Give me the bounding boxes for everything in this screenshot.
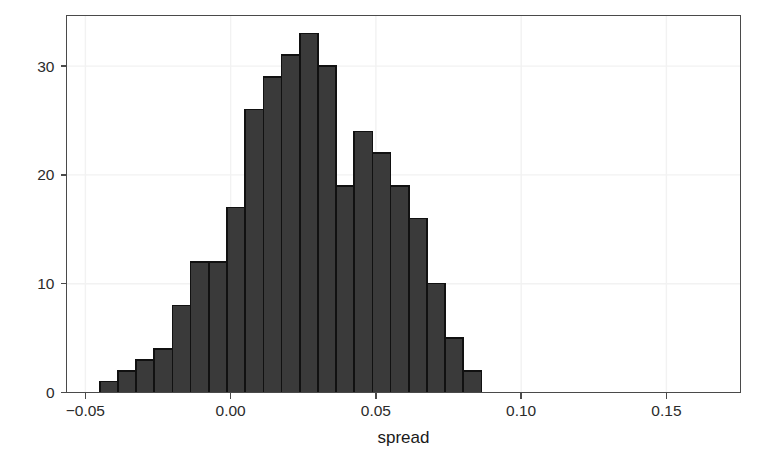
- y-tick-label: 0: [46, 384, 55, 401]
- histogram-figure: 0102030−0.050.000.050.100.15spread: [0, 0, 774, 457]
- histogram-bar: [227, 208, 245, 393]
- histogram-bar: [409, 218, 427, 392]
- x-tick-label: 0.00: [216, 402, 247, 419]
- histogram-bar: [336, 186, 354, 393]
- histogram-bar: [354, 131, 372, 392]
- histogram-bar: [390, 186, 408, 393]
- histogram-bar: [209, 262, 227, 393]
- y-tick-label: 20: [37, 166, 55, 183]
- x-tick-label: 0.05: [361, 402, 391, 419]
- histogram-bar: [136, 360, 154, 393]
- y-tick-label: 10: [37, 275, 55, 292]
- histogram-bar: [300, 33, 318, 392]
- histogram-bar: [318, 66, 336, 392]
- histogram-bar: [154, 349, 172, 393]
- x-axis: −0.050.000.050.100.15: [66, 393, 682, 419]
- histogram-bar: [372, 153, 390, 392]
- histogram-chart: 0102030−0.050.000.050.100.15spread: [0, 0, 774, 457]
- histogram-bar: [245, 110, 263, 393]
- histogram-bar: [463, 371, 481, 393]
- histogram-bar: [281, 55, 299, 392]
- histogram-bar: [445, 338, 463, 392]
- histogram-bar: [173, 305, 191, 392]
- histogram-bar: [263, 77, 281, 393]
- x-axis-title: spread: [378, 428, 430, 447]
- y-tick-label: 30: [37, 58, 55, 75]
- x-tick-label: −0.05: [66, 402, 105, 419]
- histogram-bar: [191, 262, 209, 393]
- y-axis: 0102030: [37, 58, 66, 401]
- histogram-bar: [118, 371, 136, 393]
- histogram-bar: [100, 382, 118, 393]
- x-tick-label: 0.15: [651, 402, 681, 419]
- histogram-bar: [427, 284, 445, 393]
- x-tick-label: 0.10: [506, 402, 537, 419]
